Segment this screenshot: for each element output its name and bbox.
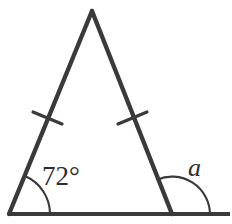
triangle-diagram-svg: 72° a [0,0,232,224]
exterior-angle-label: a [188,153,201,182]
base-angle-label: 72° [42,161,80,191]
geometry-figure: 72° a [0,0,232,224]
